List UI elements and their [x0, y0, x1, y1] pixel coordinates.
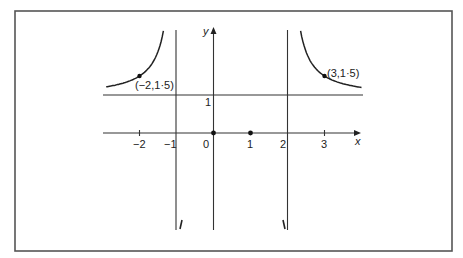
x-tick-label: −1 [164, 138, 177, 150]
graph-figure: x y −2 −1 0 1 2 3 1 (−2,1·5) (3,1·5) [0, 0, 463, 258]
x-tick-label: 0 [203, 138, 209, 150]
point-1-0 [248, 131, 253, 136]
right-branch-mark [283, 220, 285, 229]
point-label-right: (3,1·5) [327, 67, 359, 79]
x-tick-label: 1 [247, 138, 253, 150]
x-tick-label: 2 [280, 138, 286, 150]
y-axis-label: y [202, 25, 210, 37]
point-origin [211, 131, 216, 136]
x-tick-label: 3 [321, 138, 327, 150]
point-label-left: (−2,1·5) [135, 79, 174, 91]
x-tick-label: −2 [133, 138, 146, 150]
left-branch-mark [180, 220, 182, 229]
x-axis-label: x [354, 135, 361, 147]
point-minus2-1.5 [137, 74, 141, 78]
figure-frame [15, 11, 452, 251]
y-axis-arrow-icon [211, 27, 217, 34]
y-tick-label: 1 [205, 96, 211, 108]
